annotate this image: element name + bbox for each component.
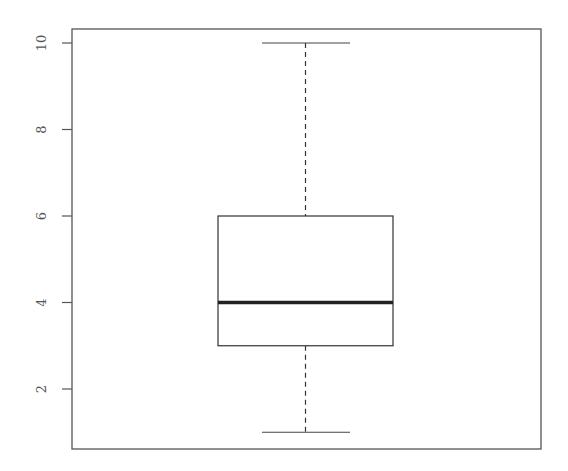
iqr-box bbox=[218, 216, 393, 346]
boxplot-chart: 246810 bbox=[0, 0, 568, 471]
y-tick-label: 10 bbox=[34, 35, 49, 52]
y-tick-label: 4 bbox=[34, 298, 49, 306]
y-tick-label: 2 bbox=[34, 385, 49, 393]
box-group bbox=[218, 43, 393, 432]
y-tick-label: 8 bbox=[34, 125, 49, 133]
y-tick-label: 6 bbox=[34, 212, 49, 220]
y-axis: 246810 bbox=[34, 35, 72, 393]
